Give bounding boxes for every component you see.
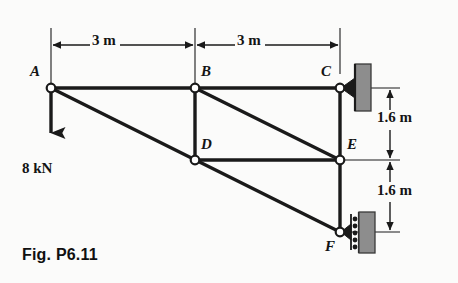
support-wall-block-C [355, 64, 371, 111]
joint-C [336, 84, 345, 93]
roller-wheels-F [353, 217, 358, 250]
roller-support-F [341, 212, 375, 253]
joint-label-B: B [201, 64, 211, 79]
joint-label-D: D [201, 137, 212, 152]
roller-wheel [353, 245, 358, 250]
figure-caption: Fig. P6.11 [22, 246, 98, 264]
dimension-label-span-ab: 3 m [92, 33, 116, 48]
joint-label-A: A [30, 64, 40, 79]
truss-figure: A B C D E F 3 m 3 m 1.6 m 1.6 m 8 kN Fig… [0, 0, 458, 283]
joint-label-C: C [321, 64, 331, 79]
roller-wheel [353, 238, 358, 243]
joint-B [191, 84, 200, 93]
dimension-label-span-bc: 3 m [237, 33, 261, 48]
dimension-label-height-ce: 1.6 m [377, 110, 412, 125]
roller-wheel [353, 224, 358, 229]
dimension-extension-lines [51, 28, 400, 232]
joint-D [191, 156, 200, 165]
joint-label-E: E [347, 137, 357, 152]
load-label-8kn: 8 kN [22, 161, 52, 176]
joint-E [336, 156, 345, 165]
pin-support-C [341, 64, 371, 111]
joint-A [47, 84, 56, 93]
support-wall-block-F [359, 212, 375, 253]
dimension-label-height-ef: 1.6 m [377, 183, 412, 198]
roller-wheel [353, 217, 358, 222]
joint-label-F: F [325, 239, 335, 254]
member-BE [195, 88, 340, 160]
truss-diagram-canvas [0, 0, 458, 283]
joint-F [336, 228, 345, 237]
roller-wheel [353, 231, 358, 236]
